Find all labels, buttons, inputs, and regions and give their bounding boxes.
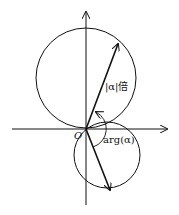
magnitude-label: |α|倍 — [105, 82, 129, 92]
complex-multiplication-diagram: O |α|倍 arg(α) — [0, 0, 179, 215]
argument-label: arg(α) — [103, 135, 135, 145]
small-circle — [74, 122, 140, 188]
diagram-canvas — [0, 0, 179, 215]
origin-label: O — [74, 131, 82, 141]
